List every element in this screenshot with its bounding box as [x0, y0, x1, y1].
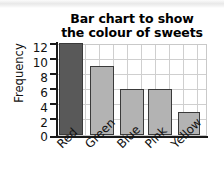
chart-title: Bar chart to show the colour of sweets — [46, 12, 218, 39]
y-tick-label-0: 0 — [26, 131, 48, 143]
y-tick-label-6: 6 — [26, 87, 48, 99]
bar-chart-screenshot: Bar chart to show the colour of sweets F… — [0, 0, 224, 182]
chart-title-line-2: the colour of sweets — [46, 26, 218, 40]
y-tick-label-4: 4 — [26, 102, 48, 114]
gridline-x-2 — [85, 45, 86, 135]
y-tick-label-12: 12 — [26, 42, 48, 54]
y-axis-tick-labels: 12 10 8 6 4 2 0 — [22, 0, 48, 182]
y-tick-label-2: 2 — [26, 117, 48, 129]
y-tick-label-8: 8 — [26, 72, 48, 84]
y-axis-line — [56, 42, 58, 138]
chart-title-line-1: Bar chart to show — [46, 12, 218, 26]
bar-red[interactable] — [59, 43, 83, 135]
y-tick-label-10: 10 — [26, 57, 48, 69]
